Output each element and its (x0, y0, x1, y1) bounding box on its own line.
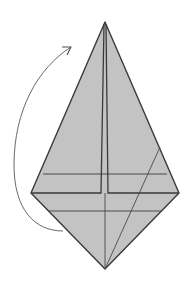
origami-diagram (0, 0, 191, 288)
